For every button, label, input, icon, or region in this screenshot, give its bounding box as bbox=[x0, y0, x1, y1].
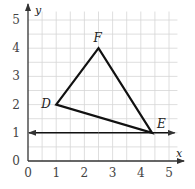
x-tick-label: 2 bbox=[81, 166, 89, 180]
x-tick-label: 1 bbox=[52, 166, 60, 180]
point-label-f: F bbox=[93, 31, 103, 45]
y-tick-label: 4 bbox=[12, 41, 20, 55]
x-tick-label: 4 bbox=[137, 166, 145, 180]
y-tick-label: 3 bbox=[12, 69, 20, 83]
point-label-d: D bbox=[40, 97, 51, 111]
coordinate-plane: yx012345012345DFE bbox=[0, 0, 195, 189]
y-tick-label: 1 bbox=[12, 126, 20, 140]
y-tick-label: 0 bbox=[12, 154, 20, 168]
x-tick-label: 5 bbox=[165, 166, 173, 180]
x-axis-label: x bbox=[176, 147, 183, 160]
x-tick-label: 3 bbox=[109, 166, 117, 180]
x-tick-label: 0 bbox=[24, 166, 32, 180]
point-label-e: E bbox=[156, 117, 166, 131]
y-tick-label: 5 bbox=[12, 13, 20, 27]
y-axis-label: y bbox=[34, 4, 42, 17]
y-tick-label: 2 bbox=[12, 98, 20, 112]
